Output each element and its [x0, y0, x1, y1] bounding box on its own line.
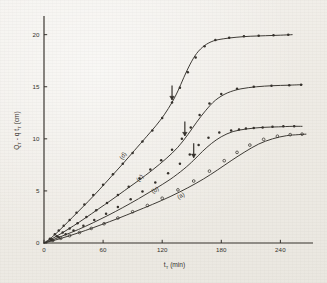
data-point [171, 101, 174, 104]
data-point [272, 34, 275, 37]
curve-label-a: (a) [176, 191, 186, 201]
data-point [93, 219, 96, 222]
data-point [270, 84, 273, 87]
data-point [117, 206, 120, 209]
curve-label-b-group: (b) [150, 185, 160, 195]
data-point [300, 83, 303, 86]
data-point [105, 213, 108, 216]
data-point [95, 209, 98, 212]
data-point [238, 128, 241, 131]
data-point [190, 126, 193, 129]
data-point [92, 194, 95, 197]
curve-label-c-group: (c) [135, 173, 145, 183]
data-point [282, 125, 285, 128]
annotation-arrow-layer [170, 85, 196, 157]
data-point [167, 172, 170, 175]
data-point [151, 129, 154, 132]
x-tick-label-120: 120 [157, 246, 168, 253]
data-point [141, 190, 144, 193]
data-point [189, 153, 192, 156]
data-point [220, 93, 223, 96]
data-point [223, 159, 226, 162]
data-point [122, 163, 125, 166]
data-point [288, 84, 291, 87]
data-point [208, 102, 211, 105]
y-axis-title-group: QT - q tT (cm) [13, 111, 22, 150]
y-axis-title: QT - q tT (cm) [13, 111, 22, 150]
x-tick-label-180: 180 [216, 246, 227, 253]
y-tick-label-10: 10 [32, 135, 40, 142]
data-point [197, 144, 200, 147]
data-point [203, 45, 206, 48]
curve-label-d-group: (d) [118, 151, 128, 161]
curve-label-c: (c) [135, 173, 145, 183]
data-point [262, 138, 265, 141]
data-point [177, 189, 180, 192]
data-point [208, 170, 211, 173]
data-point [129, 198, 132, 201]
y-tick-label-20: 20 [32, 31, 40, 38]
chart-canvas: (a)(b)(c)(d) 06012018024005101520tT (min… [0, 0, 327, 283]
data-point [257, 34, 260, 37]
data-point [64, 233, 67, 236]
data-point [54, 233, 57, 236]
x-tick-label-0: 0 [42, 246, 46, 253]
data-point [179, 163, 182, 166]
data-point [76, 222, 79, 225]
curve-label-a-group: (a) [176, 191, 186, 201]
x-tick-label-60: 60 [100, 246, 108, 253]
data-point [228, 37, 231, 40]
data-point [117, 194, 120, 197]
data-point [171, 149, 174, 152]
data-point [253, 86, 256, 89]
annotation-arrow-d [170, 85, 175, 100]
data-point [61, 231, 64, 234]
data-point [160, 159, 163, 162]
data-point [271, 126, 274, 129]
data-point [102, 183, 105, 186]
curve-label-d: (d) [118, 151, 128, 161]
data-point [243, 35, 246, 38]
annotation-arrow-b [191, 143, 196, 158]
data-point [62, 225, 64, 228]
data-point [287, 33, 290, 36]
data-point [230, 129, 233, 132]
data-point [192, 180, 195, 183]
data-point [236, 88, 239, 91]
data-point [68, 227, 71, 230]
data-point [236, 151, 239, 154]
data-point [112, 173, 115, 176]
data-point [75, 212, 78, 215]
y-tick-label-15: 15 [32, 83, 40, 90]
curve-d [44, 35, 292, 243]
axis-layer [44, 16, 313, 243]
data-point [85, 216, 88, 219]
data-point [187, 71, 190, 74]
annotation-arrow-c [183, 121, 188, 136]
data-point [82, 225, 85, 228]
data-point [141, 140, 144, 143]
data-point [181, 138, 184, 141]
data-point [127, 186, 130, 189]
data-point [149, 168, 152, 171]
data-point [154, 181, 157, 184]
curve-c [44, 85, 302, 243]
data-point [161, 197, 164, 200]
data-point [68, 219, 71, 222]
data-point [253, 127, 256, 129]
data-point [179, 87, 182, 90]
data-point [58, 229, 61, 232]
x-tick-label-240: 240 [275, 246, 286, 253]
data-point [214, 39, 217, 42]
data-point [261, 126, 264, 129]
data-point [198, 114, 201, 117]
data-point [249, 144, 252, 147]
figure-container: (a)(b)(c)(d) 06012018024005101520tT (min… [0, 0, 327, 283]
data-point [83, 203, 86, 206]
data-point [131, 152, 134, 155]
data-point [245, 127, 248, 130]
data-point [218, 131, 221, 134]
data-point [194, 56, 197, 59]
data-point [207, 137, 210, 140]
data-point [161, 117, 164, 120]
